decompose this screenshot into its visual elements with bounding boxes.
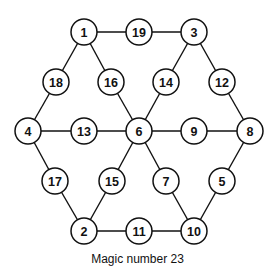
- node-13: 13: [71, 118, 97, 144]
- node-label: 12: [215, 76, 229, 90]
- node-8: 8: [237, 118, 263, 144]
- node-6: 6: [126, 118, 152, 144]
- node-9: 9: [181, 118, 207, 144]
- node-5: 5: [209, 168, 235, 194]
- node-label: 15: [105, 175, 119, 189]
- node-label: 5: [219, 175, 226, 189]
- caption: Magic number 23: [0, 252, 275, 266]
- node-label: 11: [132, 225, 145, 239]
- node-label: 17: [48, 175, 62, 189]
- node-label: 4: [25, 125, 32, 139]
- node-label: 7: [163, 175, 170, 189]
- node-label: 9: [191, 125, 198, 139]
- node-label: 18: [49, 76, 63, 90]
- node-label: 14: [159, 76, 173, 90]
- node-label: 10: [187, 225, 201, 239]
- node-label: 3: [191, 26, 198, 40]
- node-2: 2: [71, 218, 97, 244]
- node-18: 18: [43, 69, 69, 95]
- node-label: 16: [104, 76, 118, 90]
- node-label: 8: [247, 125, 254, 139]
- node-15: 15: [99, 168, 125, 194]
- node-label: 2: [81, 225, 88, 239]
- node-4: 4: [15, 118, 41, 144]
- node-10: 10: [181, 218, 207, 244]
- node-12: 12: [209, 69, 235, 95]
- node-1: 1: [71, 19, 97, 45]
- node-7: 7: [153, 168, 179, 194]
- node-3: 3: [181, 19, 207, 45]
- node-label: 6: [136, 125, 143, 139]
- node-19: 19: [126, 19, 152, 45]
- node-label: 1: [81, 26, 88, 40]
- node-16: 16: [98, 69, 124, 95]
- magic-hexagon-diagram: 11931816141241369817157521110: [0, 0, 275, 271]
- node-17: 17: [42, 168, 68, 194]
- node-label: 19: [132, 26, 146, 40]
- node-label: 13: [77, 125, 91, 139]
- node-14: 14: [153, 69, 179, 95]
- node-11: 11: [126, 218, 152, 244]
